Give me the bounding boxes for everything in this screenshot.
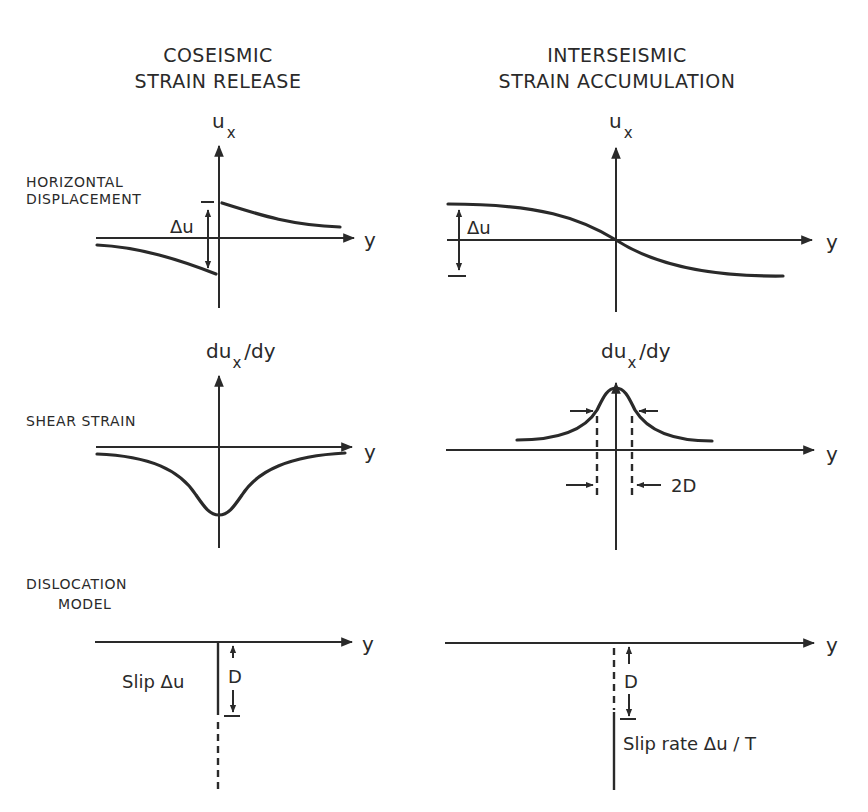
row-label-model: MODEL: [58, 596, 112, 612]
displacement-curve-right: [222, 203, 340, 227]
right-column-title-line1: INTERSEISMIC: [547, 44, 687, 66]
2d-label: 2D: [671, 475, 696, 496]
d-label: D: [228, 666, 242, 687]
slip-rate-label: Slip rate Δu / T: [623, 733, 757, 754]
left-column-title-line2: STRAIN RELEASE: [135, 70, 302, 92]
left-column-title-line1: COSEISMIC: [163, 44, 273, 66]
row-label-displacement: DISPLACEMENT: [26, 191, 141, 207]
y-axis-label: y: [826, 230, 838, 254]
interseismic-strain-panel: dux/dy y 2D: [446, 339, 838, 550]
y-axis-label: y: [364, 440, 376, 464]
row-label-horizontal: HORIZONTAL: [26, 174, 123, 190]
right-column-title-line2: STRAIN ACCUMULATION: [499, 70, 736, 92]
row-label-shear-strain: SHEAR STRAIN: [26, 413, 136, 429]
shear-strain-curve: [97, 453, 345, 515]
earthquake-cycle-diagram: COSEISMIC STRAIN RELEASE INTERSEISMIC ST…: [0, 0, 868, 812]
interseismic-displacement-panel: ux y Δu: [447, 109, 838, 312]
y-axis-label: y: [362, 632, 374, 656]
ux-axis-label: ux: [609, 109, 633, 142]
coseismic-strain-panel: dux/dy y: [96, 339, 376, 548]
y-axis-label: y: [826, 442, 838, 466]
delta-u-label: Δu: [170, 216, 194, 237]
slip-label: Slip Δu: [122, 671, 184, 692]
ux-axis-label: ux: [212, 109, 236, 142]
strain-axis-label: dux/dy: [206, 339, 276, 372]
coseismic-displacement-panel: ux y Δu: [96, 109, 376, 308]
row-label-dislocation: DISLOCATION: [26, 576, 127, 592]
interseismic-model-panel: y D Slip rate Δu / T: [445, 633, 838, 790]
y-axis-label: y: [826, 633, 838, 657]
displacement-curve-left: [97, 245, 216, 274]
coseismic-model-panel: y D Slip Δu: [95, 632, 374, 790]
shear-strain-curve: [517, 388, 712, 441]
y-axis-label: y: [364, 228, 376, 252]
delta-u-label: Δu: [467, 217, 491, 238]
d-label: D: [624, 671, 638, 692]
strain-axis-label: dux/dy: [601, 339, 671, 372]
